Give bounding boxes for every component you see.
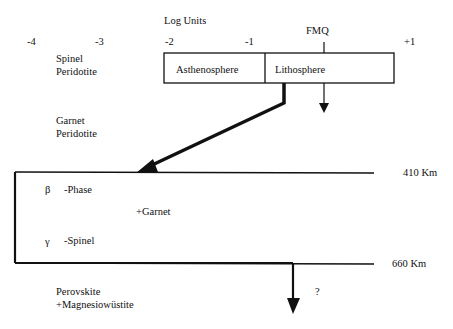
asthenosphere-label: Asthenosphere bbox=[176, 63, 238, 76]
tick-minus2: -2 bbox=[165, 35, 174, 48]
lithosphere-arrow-shaft bbox=[150, 83, 284, 166]
axis-title: Log Units bbox=[164, 14, 206, 27]
line-410 bbox=[15, 172, 374, 173]
perovskite-label: Perovskite bbox=[56, 285, 100, 298]
tick-minus3: -3 bbox=[95, 35, 104, 48]
tick-plus1: +1 bbox=[404, 35, 415, 48]
garnet-peridotite-label: Peridotite bbox=[56, 127, 97, 140]
beta-phase-label: -Phase bbox=[64, 183, 92, 196]
beta-symbol: β bbox=[45, 183, 50, 196]
fmq-arrow-head bbox=[319, 103, 329, 113]
lithosphere-label: Lithosphere bbox=[275, 63, 325, 76]
spinel-label: Spinel bbox=[56, 52, 83, 65]
lithosphere-arrow-head bbox=[136, 159, 158, 173]
tick-minus4: -4 bbox=[27, 35, 36, 48]
depth-410-label: 410 Km bbox=[403, 166, 437, 179]
depth-660-label: 660 Km bbox=[392, 257, 426, 270]
plus-garnet-label: +Garnet bbox=[136, 205, 171, 218]
gamma-symbol: γ bbox=[45, 235, 50, 248]
diagram-lines bbox=[0, 0, 453, 329]
gamma-spinel-label: -Spinel bbox=[64, 234, 94, 247]
magnesiowustite-label: +Magnesiowüstite bbox=[56, 298, 134, 311]
deep-arrow-head bbox=[287, 298, 300, 314]
garnet-label: Garnet bbox=[56, 114, 85, 127]
tick-minus1: -1 bbox=[245, 35, 254, 48]
spinel-peridotite-label: Peridotite bbox=[56, 65, 97, 78]
fmq-label: FMQ bbox=[306, 24, 329, 37]
question-mark: ? bbox=[315, 285, 320, 298]
